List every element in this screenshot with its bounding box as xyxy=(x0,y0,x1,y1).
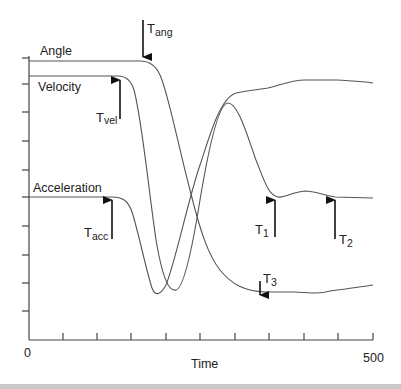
annotation-t2: T 2 xyxy=(339,232,353,249)
annotation-t1: T 1 xyxy=(255,222,269,239)
axes xyxy=(22,56,373,340)
svg-text:T: T xyxy=(263,271,271,286)
x-max-label: 500 xyxy=(363,351,384,365)
svg-text:1: 1 xyxy=(263,227,269,239)
label-velocity: Velocity xyxy=(38,80,82,94)
svg-text:T: T xyxy=(147,21,155,36)
annotation-t-acc: T acc xyxy=(84,225,108,242)
y-ticks xyxy=(22,58,29,311)
annotation-t-ang: T ang xyxy=(147,21,173,38)
svg-text:2: 2 xyxy=(347,237,353,249)
svg-text:T: T xyxy=(84,225,92,240)
x-min-label: 0 xyxy=(24,346,31,360)
svg-text:3: 3 xyxy=(271,276,277,288)
svg-text:vel: vel xyxy=(104,114,117,126)
svg-text:T: T xyxy=(339,232,347,247)
svg-text:T: T xyxy=(96,110,104,125)
x-ticks xyxy=(63,333,373,340)
svg-text:ang: ang xyxy=(155,26,173,38)
series-angle-line xyxy=(29,61,373,293)
annotation-t3: T 3 xyxy=(263,271,277,288)
label-angle: Angle xyxy=(40,44,72,58)
label-acceleration: Acceleration xyxy=(33,181,102,195)
svg-text:acc: acc xyxy=(92,230,108,242)
x-axis-title: Time xyxy=(191,357,218,371)
bottom-border xyxy=(0,384,401,389)
svg-text:T: T xyxy=(255,222,263,237)
annotation-t-vel: T vel xyxy=(96,110,117,126)
motion-chart: Angle Velocity Acceleration T ang T vel … xyxy=(0,0,401,389)
